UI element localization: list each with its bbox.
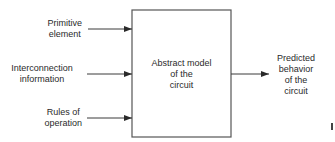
- output-label-predicted-behavior: Predicted behavior of the circuit: [271, 53, 321, 97]
- label-line: information: [2, 74, 82, 85]
- label-line: Interconnection: [2, 63, 82, 74]
- label-line: of the: [132, 69, 231, 80]
- edge-mark: [331, 123, 333, 130]
- label-line: Predicted: [271, 53, 321, 64]
- label-line: circuit: [132, 80, 231, 91]
- label-line: operation: [44, 118, 82, 129]
- input-label-interconnection-information: Interconnection information: [2, 63, 82, 85]
- input-label-primitive-element: Primitive element: [47, 18, 82, 40]
- label-line: circuit: [271, 86, 321, 97]
- label-line: behavior: [271, 64, 321, 75]
- label-line: of the: [271, 75, 321, 86]
- label-line: Primitive: [47, 18, 82, 29]
- block-label-abstract-model: Abstract model of the circuit: [132, 58, 231, 91]
- label-line: Rules of: [44, 107, 82, 118]
- input-label-rules-of-operation: Rules of operation: [44, 107, 82, 129]
- label-line: Abstract model: [132, 58, 231, 69]
- label-line: element: [47, 29, 82, 40]
